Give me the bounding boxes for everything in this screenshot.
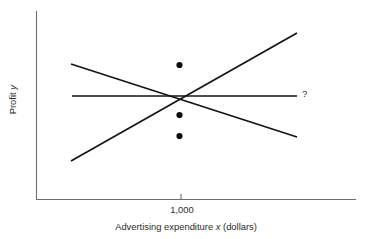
data-point (176, 112, 182, 118)
negative-slope-line (71, 64, 297, 137)
chart-figure: ? 1,000 Advertising expenditure x (dolla… (0, 0, 372, 239)
x-axis-title-suffix: (dollars) (220, 221, 256, 232)
y-axis-title-prefix: Profit (7, 90, 18, 115)
y-axis-variable: y (7, 85, 18, 90)
data-point (176, 133, 182, 139)
x-axis-tick-label-group: 1,000 (0, 205, 372, 214)
data-point (176, 62, 182, 68)
y-axis-title: Profit y (8, 70, 17, 130)
uncertainty-question-mark: ? (302, 89, 307, 99)
x-axis-tick-label: 1,000 (170, 204, 193, 215)
positive-slope-line (71, 33, 297, 161)
x-axis-title: Advertising expenditure x (dollars) (0, 222, 372, 231)
x-axis-title-prefix: Advertising expenditure (115, 221, 216, 232)
